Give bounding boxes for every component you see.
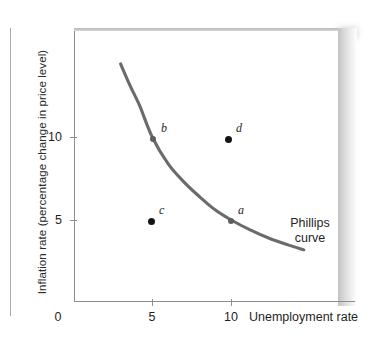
data-point-a-label: a	[238, 203, 244, 218]
data-point-b-label: b	[161, 121, 167, 136]
phillips-curve-annotation-line1: Phillips	[282, 216, 338, 231]
data-point-a-marker	[228, 218, 234, 224]
phillips-curve-annotation: Phillips curve	[282, 216, 338, 246]
data-point-b-marker	[150, 136, 156, 142]
phillips-curve-annotation-line2: curve	[282, 231, 338, 246]
phillips-curve-svg	[0, 0, 372, 346]
data-point-c-label: c	[159, 203, 164, 218]
phillips-curve-figure: Inflation rate (percentage change in pri…	[0, 0, 372, 346]
data-point-d-marker	[225, 136, 232, 143]
data-point-c-marker	[148, 218, 155, 225]
data-point-d-label: d	[236, 121, 242, 136]
